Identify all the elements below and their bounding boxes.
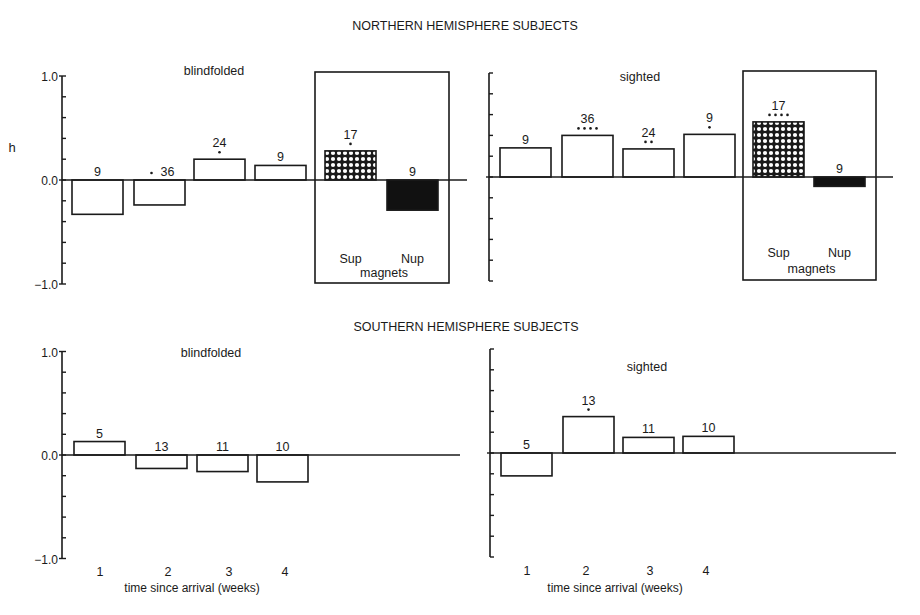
sample-size-label: 24: [213, 136, 227, 150]
x-axis-label-south-sighted: time since arrival (weeks): [547, 581, 682, 595]
x-tick-label: 2: [583, 564, 590, 578]
sample-size-label: 17: [344, 128, 358, 142]
y-tick-label: 1.0: [41, 346, 58, 360]
y-tick-label: −1.0: [34, 553, 58, 567]
panel-south-blindfolded: 1.00.0−1.0blindfolded51311101234: [34, 346, 460, 580]
bar: [500, 148, 551, 177]
bar: [684, 134, 735, 177]
sample-size-label: 9: [94, 165, 101, 179]
magnets-label: magnets: [788, 262, 836, 276]
y-tick-label: 1.0: [41, 70, 58, 84]
bar: [72, 180, 123, 214]
sample-size-label: 24: [642, 126, 656, 140]
magnet-bar-sup: [753, 122, 804, 177]
panel-north-blindfolded: 1.00.0−1.0blindfolded93624917Sup9Nupmagn…: [34, 64, 467, 292]
significance-dot: [780, 114, 783, 117]
x-axis-label-south-blindfolded: time since arrival (weeks): [124, 581, 259, 595]
significance-dot: [218, 151, 221, 154]
bar: [197, 455, 248, 472]
significance-dot: [589, 127, 592, 130]
north-title: NORTHERN HEMISPHERE SUBJECTS: [352, 19, 578, 33]
x-tick-label: 3: [226, 565, 233, 579]
magnet-category-label: Sup: [339, 252, 361, 266]
y-axis-label: h: [8, 140, 15, 155]
significance-dot: [583, 127, 586, 130]
sample-size-label: 10: [702, 421, 716, 435]
significance-dot: [708, 126, 711, 129]
bar: [257, 455, 308, 482]
panel-north-sighted: sighted93624917Sup9Nupmagnets: [486, 70, 893, 281]
panel-label: sighted: [620, 70, 660, 84]
bar: [563, 417, 614, 453]
significance-dot: [768, 114, 771, 117]
sample-size-label: 36: [581, 112, 595, 126]
bar: [134, 180, 185, 205]
x-tick-label: 4: [703, 564, 710, 578]
magnet-category-label: Sup: [767, 246, 789, 260]
bar: [136, 455, 187, 468]
magnets-label: magnets: [360, 266, 408, 280]
y-tick-label: −1.0: [34, 278, 58, 292]
sample-size-label: 9: [409, 165, 416, 179]
magnet-bar-nup: [387, 180, 438, 210]
significance-dot: [774, 114, 777, 117]
panel-south-sighted: sighted51311101234: [487, 349, 896, 578]
panel-label: sighted: [627, 360, 667, 374]
y-tick-label: 0.0: [41, 449, 58, 463]
sample-size-label: 5: [96, 427, 103, 441]
sample-size-label: 9: [706, 111, 713, 125]
significance-dot: [577, 127, 580, 130]
significance-dot: [644, 141, 647, 144]
south-title: SOUTHERN HEMISPHERE SUBJECTS: [353, 320, 578, 334]
sample-size-label: 36: [161, 165, 175, 179]
sample-size-label: 9: [522, 133, 529, 147]
figure: NORTHERN HEMISPHERE SUBJECTS SOUTHERN HE…: [0, 0, 920, 615]
bar: [74, 442, 125, 455]
sample-size-label: 9: [277, 150, 284, 164]
y-tick-label: 0.0: [41, 174, 58, 188]
sample-size-label: 11: [216, 440, 229, 454]
magnet-bar-nup: [814, 177, 865, 186]
magnet-category-label: Nup: [828, 246, 851, 260]
x-tick-label: 2: [165, 565, 172, 579]
significance-dot: [650, 141, 653, 144]
bar: [501, 453, 552, 476]
significance-dot: [786, 114, 789, 117]
x-tick-label: 3: [647, 564, 654, 578]
sample-size-label: 9: [836, 162, 843, 176]
magnet-bar-sup: [325, 151, 376, 180]
panel-label: blindfolded: [184, 64, 245, 78]
significance-dot: [587, 408, 590, 411]
bar: [623, 437, 674, 453]
panel-label: blindfolded: [181, 346, 242, 360]
sample-size-label: 13: [155, 440, 169, 454]
sample-size-label: 11: [642, 422, 655, 436]
sample-size-label: 10: [276, 440, 290, 454]
bar: [562, 135, 613, 177]
x-tick-label: 1: [97, 565, 104, 579]
significance-dot: [595, 127, 598, 130]
x-tick-label: 1: [524, 564, 531, 578]
sample-size-label: 5: [523, 438, 530, 452]
sample-size-label: 17: [772, 99, 786, 113]
magnet-category-label: Nup: [401, 252, 424, 266]
bar: [623, 149, 674, 177]
bar: [683, 436, 734, 453]
significance-dot: [349, 143, 352, 146]
sample-size-label: 13: [582, 394, 596, 408]
bar: [255, 165, 306, 180]
significance-dot: [150, 172, 153, 175]
x-tick-label: 4: [282, 565, 289, 579]
bar: [194, 159, 245, 180]
